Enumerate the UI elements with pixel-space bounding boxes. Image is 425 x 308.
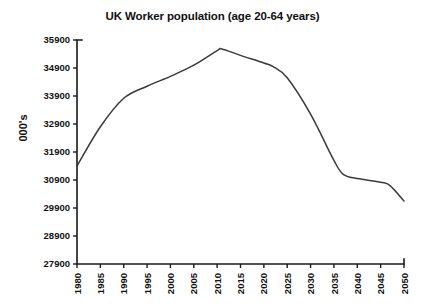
y-axis-tick-label: 33900	[44, 90, 70, 101]
y-axis-tick-label: 32900	[44, 118, 70, 129]
x-axis-tick-label: 2015	[235, 272, 246, 294]
y-axis-tick-label: 27900	[44, 258, 70, 269]
chart-plot-area: 3590034900339003290031900309002990028900…	[0, 0, 425, 308]
y-axis-tick-labels: 3590034900339003290031900309002990028900…	[44, 34, 70, 269]
chart-container: UK Worker population (age 20-64 years) 0…	[0, 0, 425, 308]
x-axis-tick-label: 1985	[95, 272, 106, 294]
x-axis-tick-label: 2010	[212, 273, 223, 294]
y-axis-tick-label: 28900	[44, 230, 70, 241]
x-axis-tick-label: 1980	[72, 273, 83, 294]
x-axis-tick-label: 2020	[258, 273, 269, 294]
x-axis-tick-label: 2050	[399, 273, 410, 294]
y-axis-tick-label: 29900	[44, 202, 70, 213]
y-axis-tick-label: 30900	[44, 174, 70, 185]
x-axis-tick-label: 2045	[375, 272, 386, 294]
x-axis-tick-label: 2040	[352, 273, 363, 294]
data-series-line	[77, 48, 404, 201]
x-axis-tick-label: 1990	[118, 273, 129, 294]
y-axis-tick-label: 34900	[44, 62, 70, 73]
y-axis-tick-label: 35900	[44, 34, 70, 45]
x-axis-tick-label: 2030	[305, 273, 316, 294]
chart-axes	[77, 40, 404, 264]
x-axis-tick-label: 2035	[329, 272, 340, 294]
x-axis-tick-labels: 1980198519901995200020052010201520202025…	[72, 272, 410, 294]
x-axis-tick-label: 2000	[165, 273, 176, 294]
x-axis-tick-label: 1995	[142, 272, 153, 294]
x-axis-tick-label: 2025	[282, 272, 293, 294]
x-axis-tick-label: 2005	[188, 272, 199, 294]
y-axis-tick-label: 31900	[44, 146, 70, 157]
